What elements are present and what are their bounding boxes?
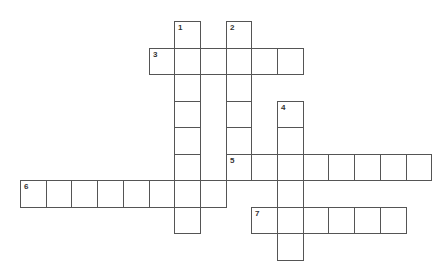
crossword-cell[interactable]: [380, 154, 407, 181]
crossword-cell[interactable]: 6: [20, 180, 47, 208]
crossword-cell[interactable]: 4: [277, 101, 304, 128]
crossword-cell[interactable]: [251, 48, 278, 75]
crossword-cell[interactable]: [277, 48, 304, 75]
crossword-cell[interactable]: 2: [226, 21, 252, 49]
clue-number: 6: [24, 182, 28, 191]
crossword-cell[interactable]: [380, 207, 407, 234]
crossword-cell[interactable]: [251, 154, 278, 181]
clue-number: 2: [230, 23, 234, 32]
crossword-cell[interactable]: [226, 127, 252, 155]
crossword-cell[interactable]: [200, 180, 227, 208]
crossword-cell[interactable]: [71, 180, 98, 208]
clue-number: 1: [178, 23, 182, 32]
crossword-cell[interactable]: [226, 74, 252, 102]
crossword-cell[interactable]: [277, 127, 304, 155]
crossword-cell[interactable]: 5: [226, 154, 252, 181]
crossword-cell[interactable]: [226, 101, 252, 128]
crossword-cell[interactable]: [406, 154, 432, 181]
crossword-cell[interactable]: [226, 48, 252, 75]
crossword-cell[interactable]: [149, 180, 175, 208]
crossword-cell[interactable]: [328, 207, 355, 234]
crossword-cell[interactable]: [123, 180, 150, 208]
crossword-cell[interactable]: [354, 207, 381, 234]
crossword-cell[interactable]: [303, 207, 329, 234]
crossword-cell[interactable]: [174, 127, 201, 155]
clue-number: 7: [255, 209, 259, 218]
crossword-cell[interactable]: [328, 154, 355, 181]
crossword-cell[interactable]: [200, 48, 227, 75]
crossword-cell[interactable]: [277, 180, 304, 208]
crossword-cell[interactable]: [277, 233, 304, 261]
crossword-cell[interactable]: [97, 180, 124, 208]
clue-number: 3: [153, 50, 157, 59]
crossword-grid: 1253467: [0, 0, 446, 271]
clue-number: 5: [230, 156, 234, 165]
crossword-cell[interactable]: [174, 180, 201, 208]
crossword-cell[interactable]: [174, 48, 201, 75]
crossword-cell[interactable]: [174, 101, 201, 128]
crossword-cell[interactable]: 3: [149, 48, 175, 75]
crossword-cell[interactable]: [174, 154, 201, 181]
crossword-cell[interactable]: [277, 207, 304, 234]
crossword-cell[interactable]: 1: [174, 21, 201, 49]
crossword-cell[interactable]: [354, 154, 381, 181]
crossword-cell[interactable]: [277, 154, 304, 181]
crossword-cell[interactable]: [46, 180, 72, 208]
crossword-cell[interactable]: [174, 74, 201, 102]
crossword-cell[interactable]: [303, 154, 329, 181]
clue-number: 4: [281, 103, 285, 112]
crossword-cell[interactable]: 7: [251, 207, 278, 234]
crossword-cell[interactable]: [174, 207, 201, 234]
